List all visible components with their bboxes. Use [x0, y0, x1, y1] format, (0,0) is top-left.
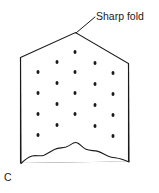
pore-dot: [112, 113, 115, 117]
specimen-right-edge: [129, 64, 130, 163]
pore-dot: [94, 124, 97, 128]
torn-bottom-edge-line: [21, 142, 129, 163]
pore-dot: [74, 70, 77, 74]
pore-dot: [74, 91, 77, 95]
figure-panel-c: Sharp fold C: [0, 0, 159, 193]
panel-letter-label: C: [4, 171, 12, 183]
pore-dot: [56, 102, 59, 106]
pore-dot: [112, 71, 115, 75]
pore-dot: [112, 92, 115, 96]
pore-dot: [56, 81, 59, 85]
pore-dot-field: [37, 50, 115, 138]
pore-dot: [37, 91, 40, 95]
torn-bottom-edge: [19, 163, 131, 165]
pore-dot: [74, 50, 77, 54]
pore-dot: [37, 70, 40, 74]
pore-dot: [56, 60, 59, 64]
sharp-fold-leader-line: [76, 17, 95, 33]
pore-dot: [56, 123, 59, 127]
pore-dot: [37, 133, 40, 137]
pore-dot: [37, 112, 40, 116]
pore-dot: [74, 112, 77, 116]
pore-dot: [94, 61, 97, 65]
pore-dot: [112, 134, 115, 138]
pore-dot: [94, 103, 97, 107]
specimen-left-edge: [21, 58, 22, 164]
pore-dot: [94, 82, 97, 86]
sharp-fold-label: Sharp fold: [96, 10, 144, 22]
diagram-canvas: Sharp fold C: [0, 0, 159, 193]
